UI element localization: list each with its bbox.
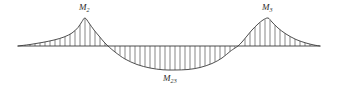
hatch-right-hogging-region [245, 19, 315, 46]
bending-moment-diagram: M2 M3 M23 [0, 0, 338, 92]
label-m23-symbol: M [163, 73, 171, 83]
label-m2-subscript: 2 [87, 7, 90, 13]
hatch-left-hogging-region [25, 18, 105, 46]
label-m23-subscript: 23 [171, 78, 177, 84]
label-moment-m23: M23 [163, 74, 177, 83]
label-moment-m2: M2 [79, 3, 90, 12]
hatch-mid-sagging-region [115, 46, 235, 70]
label-moment-m3: M3 [262, 3, 273, 12]
label-m2-symbol: M [79, 2, 87, 12]
label-m3-symbol: M [262, 2, 270, 12]
label-m3-subscript: 3 [270, 7, 273, 13]
